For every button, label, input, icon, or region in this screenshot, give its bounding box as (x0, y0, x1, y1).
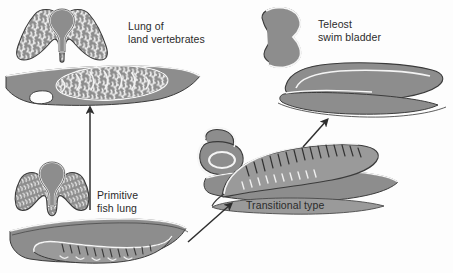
teleost-swim-bladder-longitudinal-section (278, 63, 446, 117)
label-transitional-type: Transitional type (246, 199, 324, 212)
transitional-section-lumen (209, 152, 235, 168)
label-primitive-fish-lung: Primitive fish lung (97, 189, 138, 214)
diagram-page: Lung of land vertebrates Teleost swim bl… (0, 0, 453, 273)
lung-evolution-figure (0, 0, 453, 273)
label-lung-of-land-vertebrates: Lung of land vertebrates (128, 20, 205, 45)
land-lung-pneumatic-duct-opening (30, 91, 53, 104)
label-teleost-swim-bladder: Teleost swim bladder (318, 18, 381, 43)
